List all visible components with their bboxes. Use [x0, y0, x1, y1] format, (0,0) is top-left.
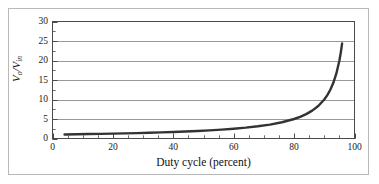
- data-series-curve: [65, 43, 343, 134]
- y-tick-label: 15: [26, 75, 48, 85]
- x-tick-label: 0: [38, 142, 68, 152]
- y-tick-label: 30: [26, 16, 48, 26]
- x-axis-title: Duty cycle (percent): [52, 156, 355, 168]
- y-tick-label: 25: [26, 36, 48, 46]
- x-tick-label: 40: [158, 142, 188, 152]
- x-tick-label: 80: [279, 142, 309, 152]
- x-tick-label: 20: [98, 142, 128, 152]
- plot-frame: [53, 22, 355, 139]
- y-tick-label: 10: [26, 94, 48, 104]
- y-tick-label: 5: [26, 114, 48, 124]
- gridlines: [53, 42, 355, 120]
- minor-tick-marks: [53, 23, 356, 140]
- y-axis-title: Vo/Vin: [10, 39, 24, 99]
- y-tick-label: 20: [26, 55, 48, 65]
- figure-container: 051015202530 020406080100 Vo/Vin Duty cy…: [0, 0, 379, 184]
- x-tick-label: 60: [219, 142, 249, 152]
- major-tick-marks: [53, 23, 356, 140]
- x-tick-label: 100: [340, 142, 370, 152]
